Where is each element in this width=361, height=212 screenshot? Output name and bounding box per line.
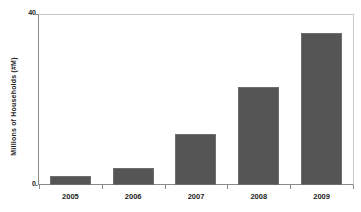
bar-slot	[290, 14, 353, 185]
x-axis-label-2005: 2005	[39, 192, 102, 201]
x-axis-tick-mark	[290, 185, 291, 189]
x-axis-tick-mark	[39, 185, 40, 189]
x-axis-label-2008: 2008	[227, 192, 290, 201]
x-axis-tick-mark	[102, 185, 103, 189]
x-axis-label-2009: 2009	[290, 192, 353, 201]
bar-slot	[102, 14, 165, 185]
y-axis-tick-mark-bottom	[34, 185, 38, 186]
x-axis-labels: 2005 2006 2007 2008 2009	[39, 192, 353, 201]
x-axis-tick-mark	[227, 185, 228, 189]
bar-slot	[39, 14, 102, 185]
x-axis-label-2006: 2006	[102, 192, 165, 201]
bar-2009	[301, 33, 342, 185]
y-axis-title: Millions of Households (#M)	[6, 21, 20, 192]
bar-chart-figure: Millions of Households (#M) 40 0 2005 20…	[0, 0, 361, 212]
x-axis-tick-mark	[353, 185, 354, 189]
bar-2006	[113, 168, 154, 185]
bar-slot	[165, 14, 228, 185]
bar-2007	[175, 134, 216, 185]
bars-area	[39, 14, 353, 185]
bar-2008	[238, 87, 279, 185]
x-axis-tick-mark	[165, 185, 166, 189]
x-axis-label-2007: 2007	[165, 192, 228, 201]
bar-2005	[50, 176, 91, 185]
bar-slot	[227, 14, 290, 185]
